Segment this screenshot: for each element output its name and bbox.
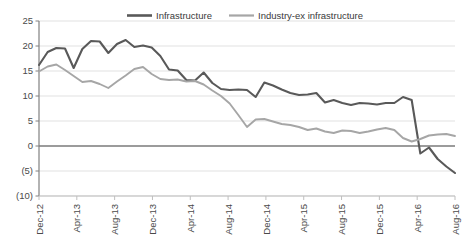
y-axis-tick-label: (10) [16, 190, 33, 201]
x-axis-tick-label: Aug-13 [109, 204, 120, 235]
y-axis [36, 21, 40, 196]
x-axis-tick-label: Apr-13 [71, 204, 82, 233]
chart-legend: InfrastructureIndustry-ex infrastructure [127, 10, 363, 21]
x-axis-tick-labels: Dec-12Apr-13Aug-13Dec-13Apr-14Aug-14Dec-… [34, 204, 461, 235]
legend-label: Industry-ex infrastructure [258, 10, 363, 21]
x-axis-tick-label: Dec-15 [374, 204, 385, 235]
line-chart: 2520151050(5)(10) Dec-12Apr-13Aug-13Dec-… [0, 0, 472, 252]
x-axis-tick-label: Apr-15 [298, 204, 309, 233]
y-axis-tick-label: 15 [22, 65, 33, 76]
x-axis-tick-label: Aug-14 [223, 204, 234, 235]
legend-label: Infrastructure [156, 10, 212, 21]
series-line [39, 40, 455, 173]
x-axis-tick-label: Apr-16 [412, 204, 423, 233]
y-axis-tick-label: 5 [28, 115, 33, 126]
series-lines [39, 40, 455, 173]
x-axis-tick-label: Dec-13 [147, 204, 158, 235]
y-axis-tick-label: (5) [21, 165, 33, 176]
y-axis-tick-label: 20 [22, 40, 33, 51]
x-axis-tick-label: Apr-14 [185, 204, 196, 233]
x-axis-tick-label: Dec-14 [261, 204, 272, 235]
x-axis-tick-label: Aug-16 [450, 204, 461, 235]
y-axis-tick-labels: 2520151050(5)(10) [16, 15, 33, 201]
gridlines [39, 21, 455, 196]
y-axis-tick-label: 0 [28, 140, 33, 151]
y-axis-tick-label: 10 [22, 90, 33, 101]
y-axis-tick-label: 25 [22, 15, 33, 26]
chart-container: 2520151050(5)(10) Dec-12Apr-13Aug-13Dec-… [0, 0, 472, 252]
x-axis-tick-label: Dec-12 [34, 204, 45, 235]
x-axis-tick-label: Aug-15 [336, 204, 347, 235]
x-axis [39, 196, 455, 200]
